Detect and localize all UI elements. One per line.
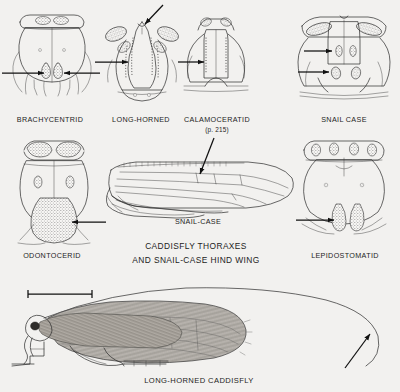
figure-label-long-horned: LONG-HORNED	[112, 115, 170, 124]
figure-label-odontocerid: ODONTOCERID	[23, 251, 81, 260]
caddisfly-eye	[31, 322, 40, 330]
figure-sublabel-calamoceratid: (p. 215)	[205, 126, 229, 134]
figure-label-lepidostomatid: LEPIDOSTOMATID	[311, 251, 379, 260]
figure-label-snail-case-wing: SNAIL-CASE	[175, 217, 221, 226]
main-caption-line1: CADDISFLY THORAXES	[145, 241, 247, 251]
figure-label-snail-case-thorax: SNAIL CASE	[321, 115, 367, 124]
odontocerid-posterior-plate	[31, 198, 77, 243]
caddisfly-plate: BRACHYCENTRID	[0, 0, 400, 392]
main-caption-line2: AND SNAIL-CASE HIND WING	[132, 255, 259, 265]
figure-label-brachycentrid: BRACHYCENTRID	[17, 115, 83, 124]
figure-label-calamoceratid: CALAMOCERATID	[184, 115, 250, 124]
figure-label-long-horned-caddisfly: LONG-HORNED CADDISFLY	[144, 376, 254, 385]
